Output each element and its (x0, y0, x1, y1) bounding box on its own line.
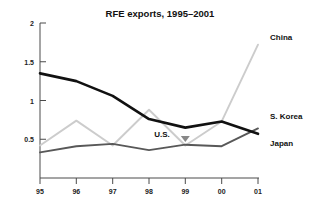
x-tick-label-01: 01 (254, 188, 262, 195)
series-label-japan: Japan (270, 139, 293, 148)
x-tick-label-95: 95 (36, 188, 44, 195)
x-tick-label-98: 98 (145, 188, 153, 195)
series-line-china (40, 45, 258, 146)
y-tick-label-1-5: 1.5 (24, 59, 34, 66)
us-pointer-arrow-icon (181, 136, 190, 142)
line-chart: RFE exports, 1995–2001 2 1.5 1 0.5 95 96… (0, 0, 315, 206)
chart-title: RFE exports, 1995–2001 (106, 8, 216, 19)
chart-container: RFE exports, 1995–2001 2 1.5 1 0.5 95 96… (0, 0, 315, 206)
x-tick-label-97: 97 (109, 188, 117, 195)
y-tick-label-1: 1 (30, 98, 34, 105)
series-label-s-korea: S. Korea (270, 112, 303, 121)
y-tick-label-0-5: 0.5 (24, 136, 34, 143)
x-tick-label-00: 00 (218, 188, 226, 195)
y-tick-label-2: 2 (30, 20, 34, 27)
series-line-japan (40, 73, 258, 133)
x-tick-label-99: 99 (181, 188, 189, 195)
annotation-label-us: U.S. (154, 130, 170, 139)
series-line-s-korea (40, 128, 258, 152)
x-tick-label-96: 96 (72, 188, 80, 195)
series-label-china: China (270, 33, 293, 42)
